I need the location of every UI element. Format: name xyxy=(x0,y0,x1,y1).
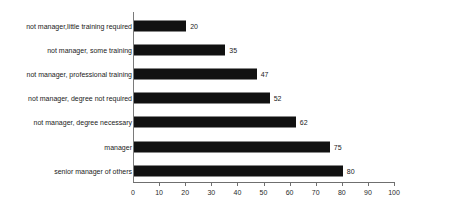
axis-tick-label: 90 xyxy=(364,188,372,197)
axis-tick-label: 50 xyxy=(260,188,268,197)
axis-tick xyxy=(211,182,212,186)
bar-row: not manager, degree necessary62 xyxy=(0,110,450,134)
axis-tick-label: 60 xyxy=(286,188,294,197)
bar-value-label: 47 xyxy=(261,70,269,79)
axis-tick xyxy=(264,182,265,186)
category-label: not manager,little training required xyxy=(26,22,132,31)
axis-tick-label: 80 xyxy=(338,188,346,197)
bar xyxy=(134,141,330,152)
category-label: not manager, professional training xyxy=(27,70,132,79)
bar-row: not manager, some training35 xyxy=(0,38,450,62)
bar xyxy=(134,45,225,56)
axis-tick-label: 100 xyxy=(388,188,400,197)
category-label: not manager, degree necessary xyxy=(34,118,132,127)
axis-tick xyxy=(368,182,369,186)
plot-area: not manager,little training required20no… xyxy=(0,0,450,215)
bar-value-label: 62 xyxy=(300,118,308,127)
axis-tick xyxy=(342,182,343,186)
bar xyxy=(134,69,257,80)
bar xyxy=(134,21,186,32)
bar xyxy=(134,165,343,176)
axis-tick-label: 20 xyxy=(181,188,189,197)
category-label: not manager, some training xyxy=(47,46,132,55)
bar-value-label: 80 xyxy=(347,166,355,175)
axis-tick xyxy=(290,182,291,186)
axis-tick xyxy=(394,182,395,186)
bar-row: senior manager of others80 xyxy=(0,159,450,183)
category-label: manager xyxy=(104,142,132,151)
axis-tick xyxy=(185,182,186,186)
bar-row: manager75 xyxy=(0,135,450,159)
axis-tick-label: 70 xyxy=(312,188,320,197)
axis-tick xyxy=(316,182,317,186)
bar-value-label: 52 xyxy=(274,94,282,103)
category-label: not manager, degree not required xyxy=(28,94,132,103)
horizontal-bar-chart: not manager,little training required20no… xyxy=(0,0,450,215)
bar-value-label: 20 xyxy=(190,22,198,31)
bar-row: not manager,little training required20 xyxy=(0,14,450,38)
bar-row: not manager, professional training47 xyxy=(0,62,450,86)
axis-tick-label: 30 xyxy=(207,188,215,197)
bar-row: not manager, degree not required52 xyxy=(0,86,450,110)
axis-tick-label: 0 xyxy=(131,188,135,197)
bar-value-label: 75 xyxy=(334,142,342,151)
bar xyxy=(134,117,296,128)
bar xyxy=(134,93,270,104)
bar-value-label: 35 xyxy=(229,46,237,55)
category-label: senior manager of others xyxy=(54,166,132,175)
axis-tick xyxy=(159,182,160,186)
axis-tick-label: 40 xyxy=(233,188,241,197)
axis-tick-label: 10 xyxy=(155,188,163,197)
axis-tick xyxy=(237,182,238,186)
